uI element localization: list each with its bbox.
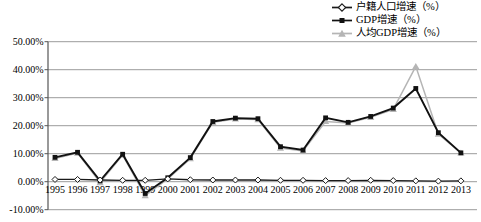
- svg-text:10.00%: 10.00%: [13, 148, 44, 159]
- svg-text:40.00%: 40.00%: [13, 64, 44, 75]
- svg-text:2002: 2002: [203, 184, 223, 195]
- gray-triangle-line-marker-icon: [332, 28, 352, 39]
- filled-square-line-marker-icon: [332, 15, 352, 26]
- svg-text:2000: 2000: [158, 184, 178, 195]
- legend-item-gdp-growth: GDP增速（%）: [332, 14, 446, 26]
- svg-text:50.00%: 50.00%: [13, 36, 44, 47]
- svg-text:2011: 2011: [406, 184, 426, 195]
- growth-rate-line-chart: 50.00%40.00%30.00%20.00%10.00%0.00%-10.0…: [0, 0, 481, 222]
- svg-text:2006: 2006: [293, 184, 313, 195]
- svg-text:0.00%: 0.00%: [18, 176, 44, 187]
- svg-text:1998: 1998: [113, 184, 133, 195]
- svg-text:1995: 1995: [45, 184, 65, 195]
- svg-text:2001: 2001: [180, 184, 200, 195]
- svg-text:1997: 1997: [90, 184, 110, 195]
- svg-text:2012: 2012: [428, 184, 448, 195]
- svg-text:2013: 2013: [451, 184, 471, 195]
- svg-text:20.00%: 20.00%: [13, 120, 44, 131]
- legend-label-gdp-growth: GDP增速（%）: [356, 14, 426, 26]
- chart-legend: 户籍人口增速（%） GDP增速（%） 人均GDP增速（%）: [332, 1, 446, 39]
- svg-text:2004: 2004: [248, 184, 268, 195]
- svg-text:1996: 1996: [68, 184, 88, 195]
- svg-text:-10.00%: -10.00%: [9, 204, 43, 215]
- legend-label-per-capita-gdp-growth: 人均GDP增速（%）: [356, 27, 446, 39]
- legend-item-registered-population-growth: 户籍人口增速（%）: [332, 1, 446, 13]
- legend-label-registered-population-growth: 户籍人口增速（%）: [356, 1, 445, 13]
- svg-text:2005: 2005: [271, 184, 291, 195]
- svg-text:2009: 2009: [361, 184, 381, 195]
- open-diamond-line-marker-icon: [332, 2, 352, 13]
- svg-text:30.00%: 30.00%: [13, 92, 44, 103]
- svg-text:2003: 2003: [225, 184, 245, 195]
- svg-text:2008: 2008: [338, 184, 358, 195]
- svg-text:2010: 2010: [383, 184, 403, 195]
- legend-item-per-capita-gdp-growth: 人均GDP增速（%）: [332, 27, 446, 39]
- svg-text:2007: 2007: [316, 184, 336, 195]
